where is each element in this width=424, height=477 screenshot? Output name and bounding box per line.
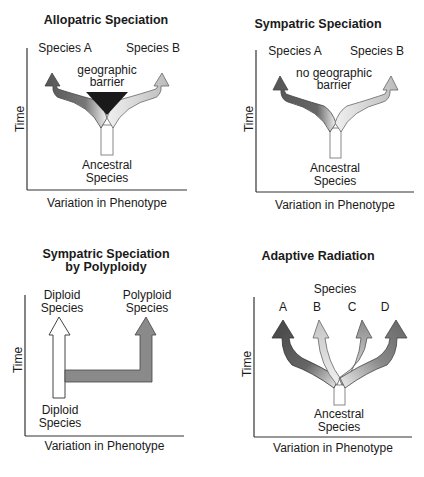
species-a-label: Species A (30, 42, 100, 55)
y-axis-label: Time (240, 351, 254, 377)
ancestral-stem (334, 385, 345, 405)
panel-title: Sympatric Speciation (212, 18, 424, 31)
panel-title: Allopatric Speciation (0, 14, 212, 27)
species-d-label: D (375, 301, 395, 314)
polyploid-arrow (65, 317, 156, 382)
barrier-label-2: barrier (284, 79, 384, 92)
panel-sympatric: Sympatric Speciation Species A Species B… (212, 0, 424, 238)
x-axis-label: Variation in Phenotype (27, 197, 187, 210)
polyploid-label-2: Species (112, 302, 182, 315)
ancestral-stem (101, 125, 113, 155)
ancestral-label-2: Species (72, 172, 142, 185)
y-axis-label: Time (11, 347, 25, 373)
diploid-bottom-label-2: Species (25, 417, 95, 430)
panel-allopatric: Allopatric Speciation Species A Species … (0, 0, 212, 238)
species-a-label: Species A (260, 45, 330, 58)
diploid-top-label-2: Species (27, 302, 97, 315)
ancestral-label-2: Species (304, 421, 374, 434)
ancestral-stem (330, 128, 341, 158)
species-b-label: B (307, 301, 327, 314)
panel-title-2: by Polyploidy (0, 261, 212, 274)
panel-polyploidy: Sympatric Speciation by Polyploidy Diplo… (0, 240, 212, 477)
x-axis-label: Variation in Phenotype (254, 442, 412, 455)
species-c-label: C (342, 301, 362, 314)
species-header: Species (300, 283, 370, 296)
y-axis-label: Time (13, 106, 27, 132)
x-axis-label: Variation in Phenotype (256, 199, 414, 212)
panel-adaptive-radiation: Adaptive Radiation Species A B C D Ances… (212, 240, 424, 477)
species-d-arrow (340, 320, 407, 388)
species-a-arrow (272, 320, 339, 388)
x-axis-label: Variation in Phenotype (25, 440, 184, 453)
species-b-label: Species B (342, 45, 412, 58)
barrier-label-2: barrier (72, 76, 142, 89)
diploid-arrow (49, 317, 70, 398)
y-axis-label: Time (242, 106, 256, 132)
panel-title: Adaptive Radiation (212, 250, 424, 263)
species-a-label: A (273, 301, 293, 314)
ancestral-label-2: Species (300, 175, 370, 188)
species-b-label: Species B (118, 42, 188, 55)
